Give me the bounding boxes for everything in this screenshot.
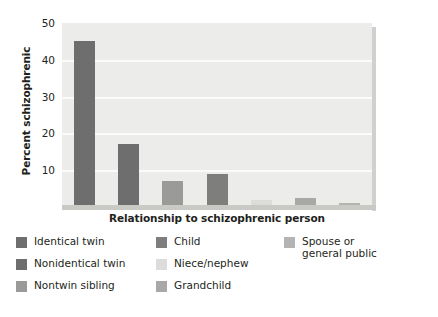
y-axis-title: Percent schizophrenic — [18, 36, 34, 186]
legend-swatch-icon — [16, 237, 27, 248]
y-axis-tick-labels: 1020304050 — [34, 15, 58, 215]
legend-label: Spouse or general public — [302, 236, 377, 259]
legend-label: Identical twin — [34, 236, 105, 248]
legend-item: Identical twin — [16, 236, 156, 251]
legend-swatch-icon — [16, 259, 27, 270]
gridline — [62, 97, 372, 99]
gridline — [62, 60, 372, 62]
y-axis-title-text: Percent schizophrenic — [20, 47, 32, 176]
legend-swatch-icon — [284, 237, 295, 248]
legend-item: Nonidentical twin — [16, 258, 156, 273]
legend-column: ChildNiece/nephewGrandchild — [156, 236, 286, 302]
legend-item: Niece/nephew — [156, 258, 286, 273]
legend-label: Nontwin sibling — [34, 280, 115, 292]
legend-label: Grandchild — [174, 280, 231, 292]
plot-area — [62, 23, 372, 207]
legend-item: Child — [156, 236, 286, 251]
legend-swatch-icon — [156, 259, 167, 270]
gridline — [62, 170, 372, 172]
y-axis-tick-label: 30 — [42, 91, 55, 102]
y-axis-tick-label: 50 — [42, 18, 55, 29]
bar — [162, 181, 183, 207]
legend-item: Nontwin sibling — [16, 280, 156, 295]
legend-item: Spouse or general public — [284, 236, 424, 251]
legend-swatch-icon — [156, 237, 167, 248]
legend-swatch-icon — [156, 281, 167, 292]
y-axis-tick-label: 40 — [42, 54, 55, 65]
chart-legend: Identical twinNonidentical twinNontwin s… — [16, 236, 426, 308]
legend-column: Spouse or general public — [284, 236, 424, 258]
x-axis-title: Relationship to schizophrenic person — [62, 212, 372, 224]
gridline — [62, 133, 372, 135]
legend-swatch-icon — [16, 281, 27, 292]
y-axis-tick-label: 10 — [42, 165, 55, 176]
bar — [207, 174, 228, 207]
bar — [118, 144, 139, 207]
bar-chart-figure: Percent schizophrenic 1020304050 Relatio… — [0, 0, 438, 317]
y-axis-tick-label: 20 — [42, 128, 55, 139]
legend-label: Nonidentical twin — [34, 258, 125, 270]
x-axis-baseline — [62, 205, 376, 210]
legend-column: Identical twinNonidentical twinNontwin s… — [16, 236, 156, 302]
bar — [74, 41, 95, 207]
legend-item: Grandchild — [156, 280, 286, 295]
legend-label: Child — [174, 236, 201, 248]
legend-label: Niece/nephew — [174, 258, 248, 270]
